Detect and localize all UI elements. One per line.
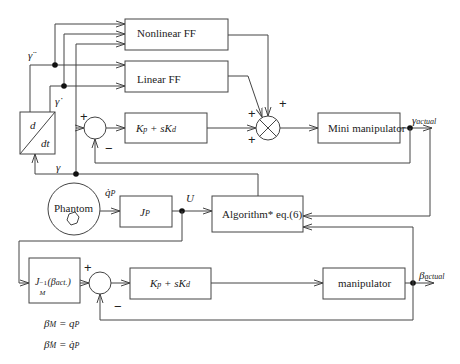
algorithm-label: Algorithm* eq.(6) xyxy=(222,209,302,220)
nonlinear-ff-label: Nonlinear FF xyxy=(137,28,196,39)
sum-junction-bottom xyxy=(89,272,111,294)
jm-inverse-label: J−1M(βact.) xyxy=(35,277,71,287)
gamma-label: γ xyxy=(56,162,60,173)
qp-dot-label: q̇P xyxy=(105,187,115,198)
sum-top-minus-sign: − xyxy=(105,142,113,155)
sum-top-plus-sign: + xyxy=(80,110,88,123)
mult-plus-left-sign: + xyxy=(248,107,256,120)
pd-bottom-label: Kp + sKd xyxy=(150,278,190,289)
mult-plus-right-sign: + xyxy=(279,97,287,110)
diagram-canvas xyxy=(0,0,460,364)
mini-manipulator-label: Mini manipulator xyxy=(328,123,405,134)
linear-ff-label: Linear FF xyxy=(137,74,181,85)
pd-top-label: Kp + sKd xyxy=(136,123,176,134)
sum-bottom-plus-sign: + xyxy=(84,261,92,274)
beta-actual-label: βactual xyxy=(419,270,444,281)
equation-position: βM = qP xyxy=(44,318,79,329)
mult-plus-bottom-sign: + xyxy=(248,133,256,146)
u-vector-label: U⃗ xyxy=(186,193,203,204)
jp-label: JP xyxy=(140,207,150,218)
sum-bottom-minus-sign: − xyxy=(114,300,122,313)
manipulator-label: manipulator xyxy=(338,278,391,289)
differentiator-denominator: dt xyxy=(41,138,50,149)
gamma-actual-label: γactual xyxy=(412,115,436,126)
differentiator-numerator: d xyxy=(30,120,36,131)
gamma-ddot-label: γ̈ xyxy=(28,50,32,61)
phantom-label: Phantom xyxy=(54,203,93,214)
gamma-dot-label: γ̇ xyxy=(55,96,59,107)
equation-velocity: β̇M = q̇P xyxy=(44,339,79,350)
